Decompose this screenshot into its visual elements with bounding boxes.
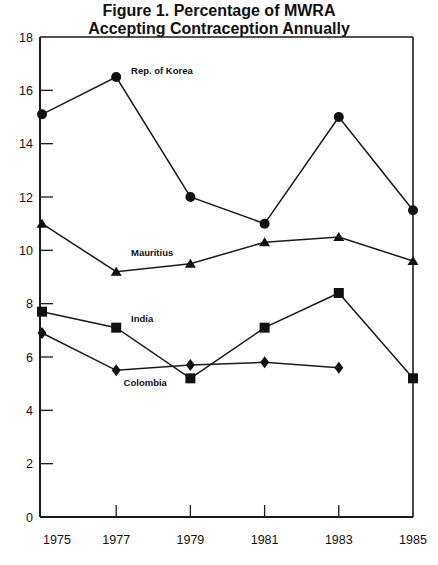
circle-marker-icon xyxy=(37,109,47,119)
y-tick-label: 10 xyxy=(19,244,33,258)
triangle-marker-icon xyxy=(37,219,48,228)
diamond-marker-icon xyxy=(112,364,121,376)
square-marker-icon xyxy=(37,307,47,317)
y-tick-label: 2 xyxy=(26,457,33,471)
series-label: Colombia xyxy=(124,377,168,388)
x-tick-label: 1985 xyxy=(399,533,427,547)
y-tick-label: 8 xyxy=(26,297,33,311)
series-label: India xyxy=(131,313,154,324)
square-marker-icon xyxy=(334,288,344,298)
square-marker-icon xyxy=(408,373,418,383)
y-tick-label: 16 xyxy=(19,84,33,98)
series-colombia xyxy=(38,327,344,376)
circle-marker-icon xyxy=(334,112,344,122)
circle-marker-icon xyxy=(260,219,270,229)
circle-marker-icon xyxy=(408,205,418,215)
series-line xyxy=(42,77,413,224)
diamond-marker-icon xyxy=(186,359,195,371)
line-chart: 024681012141618197519771979198119831985 … xyxy=(0,0,438,565)
y-tick-label: 12 xyxy=(19,191,33,205)
series-line xyxy=(42,224,413,272)
diamond-marker-icon xyxy=(334,362,343,374)
series-rep-of-korea xyxy=(37,72,418,229)
series-line xyxy=(42,293,413,378)
series-mauritius xyxy=(37,219,419,276)
series-label: Rep. of Korea xyxy=(131,65,193,76)
x-tick-label: 1979 xyxy=(176,533,204,547)
x-tick-label: 1975 xyxy=(43,533,71,547)
diamond-marker-icon xyxy=(38,327,47,339)
square-marker-icon xyxy=(111,323,121,333)
circle-marker-icon xyxy=(111,72,121,82)
y-tick-label: 18 xyxy=(19,31,33,45)
x-tick-label: 1981 xyxy=(251,533,279,547)
y-tick-label: 0 xyxy=(26,511,33,525)
x-tick-label: 1977 xyxy=(102,533,130,547)
square-marker-icon xyxy=(185,373,195,383)
y-tick-label: 14 xyxy=(19,137,33,151)
diamond-marker-icon xyxy=(260,356,269,368)
y-tick-label: 6 xyxy=(26,351,33,365)
series-india xyxy=(37,288,418,383)
y-tick-label: 4 xyxy=(26,404,33,418)
chart-series xyxy=(37,72,419,383)
triangle-marker-icon xyxy=(333,232,344,241)
square-marker-icon xyxy=(260,323,270,333)
circle-marker-icon xyxy=(185,192,195,202)
chart-axes: 024681012141618197519771979198119831985 xyxy=(19,31,427,548)
series-label: Mauritius xyxy=(131,247,173,258)
x-tick-label: 1983 xyxy=(325,533,353,547)
